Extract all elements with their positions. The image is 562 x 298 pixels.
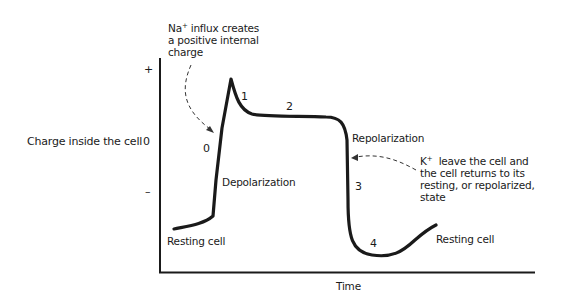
y-tick-zero: 0	[143, 136, 150, 148]
x-axis-label: Time	[336, 280, 361, 292]
na-influx-annotation: Na+ influx creates a positive internal c…	[168, 20, 259, 58]
y-axis-label: Charge inside the cell	[27, 136, 142, 148]
resting-cell-left-label: Resting cell	[167, 235, 225, 247]
k-line-3: resting, or repolarized,	[420, 179, 535, 191]
k-line-2: the cell returns to its	[420, 167, 535, 179]
phase-3-label: 3	[355, 181, 362, 193]
k-efflux-arrow	[356, 156, 416, 170]
k-line-1: leave the cell and	[432, 155, 528, 167]
k-arrowhead-icon	[351, 154, 358, 161]
na-ion: Na	[168, 22, 182, 34]
na-line-1: influx creates	[188, 22, 260, 34]
resting-cell-right-label: Resting cell	[436, 233, 494, 245]
phase-2-label: 2	[286, 101, 293, 113]
y-tick-minus: –	[145, 186, 151, 198]
na-line-2: a positive internal	[168, 34, 259, 46]
action-potential-curve	[174, 79, 436, 256]
k-efflux-annotation: K+ leave the cell and the cell returns t…	[420, 153, 535, 203]
na-influx-arrow	[185, 65, 210, 129]
y-tick-plus: +	[144, 64, 153, 76]
phase-0-label: 0	[203, 143, 210, 155]
na-line-3: charge	[168, 46, 259, 58]
action-potential-graph	[0, 0, 562, 298]
phase-4-label: 4	[370, 238, 377, 250]
k-ion: K	[420, 155, 427, 167]
k-line-4: state	[420, 191, 535, 203]
repolarization-label: Repolarization	[352, 132, 424, 144]
depolarization-label: Depolarization	[222, 176, 295, 188]
phase-1-label: 1	[241, 91, 248, 103]
